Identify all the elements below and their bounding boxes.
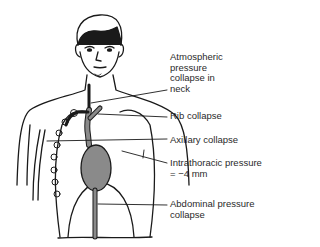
label-rib-collapse: Rib collapse [170, 111, 222, 122]
label-abdominal-pressure: Abdominal pressure collapse [170, 199, 255, 220]
head-outline [76, 15, 124, 77]
label-intrathoracic-pressure: Intrathoracic pressure = −4 mm [170, 158, 262, 179]
leader-lines [47, 90, 167, 205]
label-atmospheric-pressure: Atmospheric pressure collapse in neck [170, 52, 223, 94]
venous-system [66, 85, 111, 237]
label-axillary-collapse: Axillary collapse [170, 135, 238, 146]
